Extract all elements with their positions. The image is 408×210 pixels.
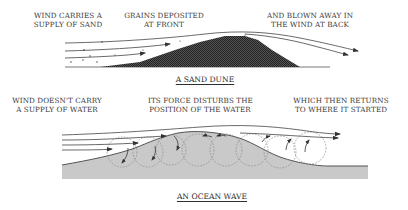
ocean-wave-figure <box>62 126 368 179</box>
wind-arrow <box>62 136 166 140</box>
label-line: WHICH THEN RETURNS <box>292 96 390 105</box>
dune-label-blown-away: AND BLOWN AWAY IN THE WIND AT BACK <box>266 11 354 29</box>
dune-label-grains-deposited: GRAINS DEPOSITED AT FRONT <box>122 11 206 29</box>
label-line: TO WHERE IT STARTED <box>292 105 390 114</box>
label-line: ITS FORCE DISTURBS THE <box>148 96 252 105</box>
motion-arrow <box>305 140 309 152</box>
wind-arrow <box>65 44 170 51</box>
sand-dune-title: A SAND DUNE <box>170 75 240 84</box>
wave-label-force-disturbs: ITS FORCE DISTURBS THE POSITION OF THE W… <box>148 96 252 114</box>
label-line: GRAINS DEPOSITED <box>122 11 206 20</box>
wind-arrow <box>240 133 338 138</box>
dune-label-wind-carries: WIND CARRIES A SUPPLY OF SAND <box>30 11 106 29</box>
wind-arrow <box>62 149 112 150</box>
label-line: THE WIND AT BACK <box>266 20 354 29</box>
label-line: SUPPLY OF SAND <box>30 20 106 29</box>
label-line: AT FRONT <box>122 20 206 29</box>
wind-arrow <box>62 143 138 145</box>
wind-arrow <box>65 53 145 58</box>
wave-label-returns: WHICH THEN RETURNS TO WHERE IT STARTED <box>292 96 390 114</box>
label-line: AND BLOWN AWAY IN <box>266 11 354 20</box>
label-line: A SUPPLY OF WATER <box>12 105 102 114</box>
motion-arrow <box>286 139 291 150</box>
label-line: WIND DOESN'T CARRY <box>12 96 102 105</box>
wave-label-wind-doesnt-carry: WIND DOESN'T CARRY A SUPPLY OF WATER <box>12 96 102 114</box>
sand-dune-figure <box>65 32 358 67</box>
label-line: WIND CARRIES A <box>30 11 106 20</box>
label-line: POSITION OF THE WATER <box>148 105 252 114</box>
ocean-wave-title: AN OCEAN WAVE <box>175 192 249 201</box>
